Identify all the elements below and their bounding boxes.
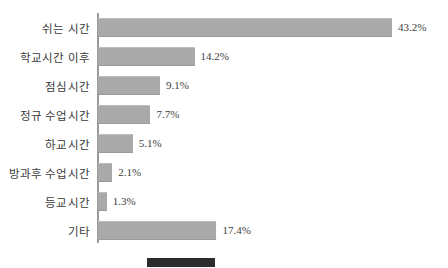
bar-row: 기타 17.4% [0, 216, 448, 245]
category-label: 하교시간 [45, 136, 90, 152]
bar [98, 192, 107, 211]
bar [98, 18, 392, 37]
bar-container: 9.1% [98, 76, 189, 95]
bar-container: 43.2% [98, 18, 426, 37]
category-label: 기타 [68, 223, 90, 239]
bar-row: 등교시간 1.3% [0, 187, 448, 216]
category-label: 등교시간 [45, 194, 90, 210]
bar-row: 쉬는 시간 43.2% [0, 13, 448, 42]
bar [98, 105, 150, 124]
chart-legend [147, 256, 225, 268]
bar-container: 5.1% [98, 134, 162, 153]
bar-value-label: 5.1% [139, 138, 162, 149]
bar-row: 정규 수업시간 7.7% [0, 100, 448, 129]
bar [98, 163, 112, 182]
bar-value-label: 2.1% [118, 167, 141, 178]
legend-swatch [147, 258, 215, 267]
bar-rows: 쉬는 시간 43.2% 학교시간 이후 14.2% 점심시간 9.1% [0, 13, 448, 245]
category-label: 쉬는 시간 [42, 20, 90, 36]
category-label: 학교시간 이후 [20, 49, 90, 65]
bar [98, 134, 133, 153]
bar-container: 7.7% [98, 105, 179, 124]
plot-area: 쉬는 시간 43.2% 학교시간 이후 14.2% 점심시간 9.1% [0, 0, 448, 246]
bar-container: 17.4% [98, 221, 251, 240]
bar-container: 2.1% [98, 163, 141, 182]
bar-row: 하교시간 5.1% [0, 129, 448, 158]
bar-value-label: 7.7% [156, 109, 179, 120]
bar [98, 76, 160, 95]
bar-container: 1.3% [98, 192, 136, 211]
bar-value-label: 43.2% [398, 22, 426, 33]
bar-value-label: 1.3% [113, 196, 136, 207]
bar [98, 221, 216, 240]
bar [98, 47, 195, 66]
bar-value-label: 9.1% [166, 80, 189, 91]
category-label: 점심시간 [45, 78, 90, 94]
bar-row: 방과후 수업시간 2.1% [0, 158, 448, 187]
bar-row: 점심시간 9.1% [0, 71, 448, 100]
bar-value-label: 17.4% [222, 225, 250, 236]
bar-value-label: 14.2% [201, 51, 229, 62]
category-label: 정규 수업시간 [20, 107, 90, 123]
category-label: 방과후 수업시간 [9, 165, 90, 181]
bar-row: 학교시간 이후 14.2% [0, 42, 448, 71]
bar-container: 14.2% [98, 47, 229, 66]
